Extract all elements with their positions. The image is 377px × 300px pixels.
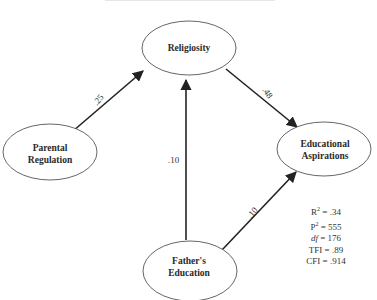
edge-father-to-aspirations — [222, 172, 296, 250]
node-fathers-education: Father's Education — [143, 241, 237, 300]
node-parental-label-line1: Parental — [33, 143, 68, 153]
node-religiosity: Religiosity — [142, 21, 236, 75]
node-parental-label-line2: Regulation — [28, 155, 73, 165]
node-aspirations-label-line2: Aspirations — [302, 151, 349, 161]
node-educational-aspirations: Educational Aspirations — [277, 122, 371, 176]
edge-parental-to-religiosity — [73, 71, 143, 131]
stat-cfi: CFI = .914 — [296, 256, 356, 268]
node-father-label-line2: Education — [168, 268, 210, 278]
stat-r2: R2 = .34 — [296, 204, 356, 219]
stat-p2: P2 = 555 — [296, 219, 356, 234]
stat-df: df = 176 — [296, 233, 356, 245]
edge-religiosity-to-aspirations — [226, 69, 297, 127]
node-parental-regulation: Parental Regulation — [3, 124, 97, 180]
coef-father-aspirations: .10 — [245, 205, 260, 220]
coef-father-religiosity: .10 — [168, 155, 180, 165]
fit-statistics: R2 = .34 P2 = 555 df = 176 TFI = .89 CFI… — [296, 204, 356, 268]
node-father-label-line1: Father's — [172, 256, 206, 266]
stat-tfi: TFI = .89 — [296, 245, 356, 257]
node-aspirations-label-line1: Educational — [300, 139, 349, 149]
node-religiosity-label: Religiosity — [168, 43, 211, 53]
